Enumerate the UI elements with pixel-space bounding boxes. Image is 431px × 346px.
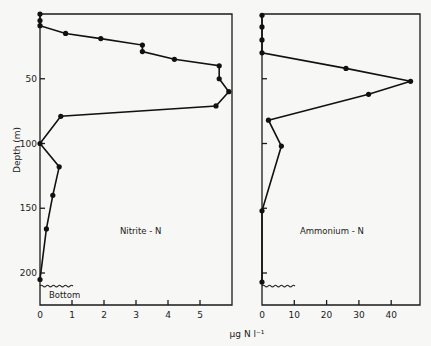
x-axis-title: µg N l⁻¹ <box>230 329 265 339</box>
x-tick-label: 1 <box>69 310 75 320</box>
data-point <box>213 103 218 108</box>
x-tick-label: 10 <box>289 310 301 320</box>
data-point <box>37 23 42 28</box>
data-point <box>44 226 49 231</box>
x-tick-label: 0 <box>259 310 265 320</box>
x-tick-label: 40 <box>385 310 397 320</box>
depth-profile-chart: 01234550100150200Nitrite - N010203040Amm… <box>0 0 431 346</box>
data-point <box>37 18 42 23</box>
ammonium-label: Ammonium - N <box>300 226 364 236</box>
ammonium-panel: 010203040Ammonium - N <box>259 13 420 320</box>
nitrite-panel: 01234550100150200Nitrite - N <box>20 11 232 320</box>
x-tick-label: 2 <box>101 310 107 320</box>
data-point <box>366 92 371 97</box>
data-point <box>140 49 145 54</box>
data-point <box>172 57 177 62</box>
data-point <box>259 13 264 18</box>
data-point <box>259 24 264 29</box>
data-point <box>50 193 55 198</box>
y-tick-label: 100 <box>20 139 37 149</box>
data-point <box>140 42 145 47</box>
y-tick-label: 150 <box>20 203 37 213</box>
y-tick-label: 200 <box>20 268 37 278</box>
y-axis-title: Depth (m) <box>12 127 22 173</box>
data-point <box>343 66 348 71</box>
data-point <box>259 37 264 42</box>
x-tick-label: 0 <box>37 310 43 320</box>
data-point <box>58 114 63 119</box>
ammonium-profile-line <box>262 15 411 282</box>
data-point <box>259 208 264 213</box>
data-point <box>37 277 42 282</box>
seabed-line <box>262 285 295 287</box>
data-point <box>259 50 264 55</box>
data-point <box>217 76 222 81</box>
nitrite-label: Nitrite - N <box>120 226 161 236</box>
data-point <box>98 36 103 41</box>
x-tick-label: 5 <box>197 310 203 320</box>
y-tick-label: 50 <box>26 74 38 84</box>
x-tick-label: 3 <box>133 310 139 320</box>
data-point <box>266 118 271 123</box>
data-point <box>408 79 413 84</box>
data-point <box>226 89 231 94</box>
data-point <box>57 164 62 169</box>
data-point <box>259 279 264 284</box>
data-point <box>217 63 222 68</box>
data-point <box>37 11 42 16</box>
x-tick-label: 20 <box>321 310 333 320</box>
bottom-label: Bottom <box>49 290 80 300</box>
nitrite-frame <box>40 14 232 305</box>
nitrite-profile-line <box>40 14 229 279</box>
data-point <box>37 141 42 146</box>
data-point <box>279 143 284 148</box>
seabed-line <box>40 285 73 287</box>
x-tick-label: 30 <box>353 310 365 320</box>
data-point <box>63 31 68 36</box>
x-tick-label: 4 <box>165 310 171 320</box>
